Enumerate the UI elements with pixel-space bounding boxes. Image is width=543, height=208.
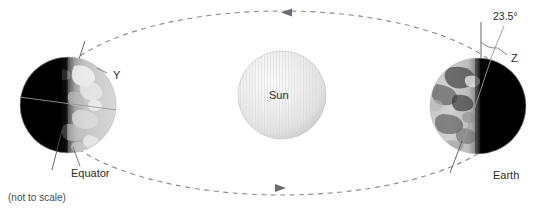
earth-right-group: 23.5° Z Earth	[429, 10, 530, 181]
earth-right-pole-leader	[498, 48, 507, 55]
earth-right-surface	[429, 58, 530, 154]
earth-right-planet-label: Earth	[493, 169, 519, 181]
sun-label: Sun	[269, 89, 289, 101]
earth-left-surface	[14, 57, 116, 153]
earth-right-angle-label: 23.5°	[493, 10, 518, 22]
earth-left-equator-label: Equator	[71, 167, 110, 179]
earth-orbit-diagram: Y Equator	[0, 0, 543, 208]
scale-note: (not to scale)	[8, 192, 66, 203]
earth-right-angle-arc	[481, 42, 497, 48]
earth-left-pole-label: Y	[113, 69, 121, 81]
earth-left-group: Y Equator	[14, 41, 121, 179]
orbit-arrow-top-icon	[281, 9, 292, 17]
earth-right-pole-label: Z	[511, 52, 518, 64]
orbit-arrow-bottom-icon	[275, 184, 286, 192]
diagram-canvas: Y Equator	[0, 0, 543, 208]
